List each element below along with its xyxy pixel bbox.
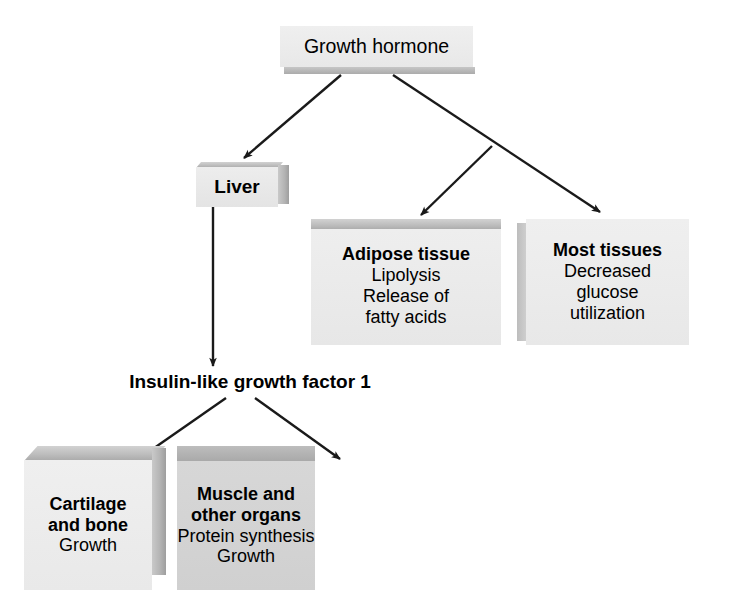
node-liver-face: Liver xyxy=(196,167,278,207)
node-adipose-tissue: Adipose tissue Lipolysis Release of fatt… xyxy=(311,219,501,345)
node-adipose-tissue-effect-1: Lipolysis xyxy=(371,265,440,286)
node-most-tissues-effect-1: Decreased xyxy=(564,261,651,282)
node-growth-hormone: Growth hormone xyxy=(280,26,473,74)
box-top-bevel xyxy=(24,446,166,461)
node-muscle-and-other-organs: Muscle and other organs Protein synthesi… xyxy=(177,446,315,590)
node-liver-label: Liver xyxy=(214,176,259,198)
node-cartilage-and-bone: Cartilage and bone Growth xyxy=(24,446,166,590)
node-adipose-tissue-title: Adipose tissue xyxy=(342,244,470,265)
node-cartilage-and-bone-face: Cartilage and bone Growth xyxy=(24,460,152,590)
node-igf1-label: Insulin-like growth factor 1 xyxy=(105,371,395,393)
node-adipose-tissue-effect-3: fatty acids xyxy=(365,307,446,328)
arrow-gh-to-most-tissues xyxy=(393,75,600,212)
node-growth-hormone-label: Growth hormone xyxy=(304,35,449,58)
box-top-bevel xyxy=(177,446,315,462)
arrow-gh-to-adipose xyxy=(421,146,492,215)
node-liver: Liver xyxy=(196,162,291,207)
node-most-tissues-effect-2: glucose xyxy=(576,282,638,303)
arrow-gh-to-liver xyxy=(244,75,341,158)
growth-hormone-diagram: Growth hormone Liver Adipose tissue Lipo… xyxy=(0,0,738,608)
node-cartilage-and-bone-title-1: Cartilage xyxy=(49,494,126,515)
node-muscle-and-other-organs-face: Muscle and other organs Protein synthesi… xyxy=(177,461,315,590)
node-most-tissues-title: Most tissues xyxy=(553,240,662,261)
node-muscle-and-other-organs-effect-1: Protein synthesis xyxy=(177,526,314,547)
node-most-tissues-effect-3: utilization xyxy=(570,303,645,324)
node-muscle-and-other-organs-effect-2: Growth xyxy=(217,546,275,567)
node-cartilage-and-bone-effect-1: Growth xyxy=(59,535,117,556)
node-cartilage-and-bone-title-2: and bone xyxy=(48,515,128,536)
node-growth-hormone-face: Growth hormone xyxy=(280,26,473,67)
node-adipose-tissue-effect-2: Release of xyxy=(363,286,449,307)
box-right-face xyxy=(152,448,166,575)
node-muscle-and-other-organs-title-1: Muscle and xyxy=(197,484,295,505)
box-right-face xyxy=(278,165,289,204)
box-bottom-edge xyxy=(284,67,475,74)
node-most-tissues-face: Most tissues Decreased glucose utilizati… xyxy=(526,219,689,345)
node-most-tissues: Most tissues Decreased glucose utilizati… xyxy=(517,219,689,345)
node-muscle-and-other-organs-title-2: other organs xyxy=(191,505,301,526)
node-adipose-tissue-face: Adipose tissue Lipolysis Release of fatt… xyxy=(311,229,501,345)
